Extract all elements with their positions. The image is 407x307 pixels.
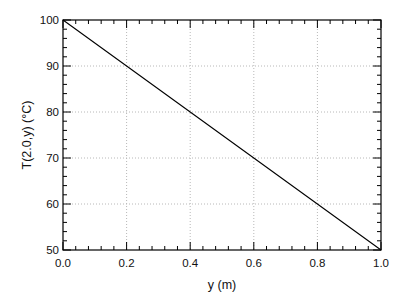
line-chart: 0.00.20.40.60.81.0 5060708090100 y (m) T… xyxy=(0,0,407,307)
y-tick-label: 90 xyxy=(46,60,59,72)
x-tick-labels: 0.00.20.40.60.81.0 xyxy=(55,257,389,269)
x-tick-label: 0.2 xyxy=(119,257,135,269)
x-tick-label: 0.6 xyxy=(246,257,262,269)
x-tick-label: 0.8 xyxy=(309,257,325,269)
x-axis-label: y (m) xyxy=(208,278,236,292)
y-tick-label: 80 xyxy=(46,106,59,118)
y-tick-label: 70 xyxy=(46,152,59,164)
data-series xyxy=(63,20,381,250)
y-tick-label: 60 xyxy=(46,198,59,210)
y-tick-label: 50 xyxy=(46,244,59,256)
x-tick-label: 1.0 xyxy=(373,257,389,269)
y-tick-labels: 5060708090100 xyxy=(40,14,59,256)
series-line xyxy=(63,20,381,250)
x-tick-label: 0.4 xyxy=(182,257,199,269)
x-tick-label: 0.0 xyxy=(55,257,71,269)
y-axis-label: T(2.0,y) (°C) xyxy=(20,101,34,170)
y-tick-label: 100 xyxy=(40,14,59,26)
